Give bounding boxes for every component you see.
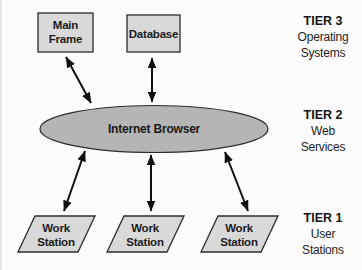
browser-label: Internet Browser [108,122,201,136]
tier-1-subtitle-line1: User [311,227,336,241]
workstation-2-node: Work Station [107,216,184,252]
double-arrow-mainframe-browser [66,57,91,103]
tier-1-subtitle-line2: Stations [302,243,344,257]
workstation-1-node: Work Station [18,216,95,252]
tier-3-subtitle-line1: Operating [298,30,349,44]
tier-2-title: TIER 2 [304,108,343,122]
tier-3-caption: TIER 3 Operating Systems [298,14,349,60]
tier-1-caption: TIER 1 User Stations [302,211,344,257]
mainframe-label-line2: Frame [49,33,83,45]
double-arrow-browser-workstation1 [64,151,85,211]
tier-2-subtitle-line1: Web [311,124,335,138]
browser-node: Internet Browser [40,106,268,153]
scan-edge-artifact [0,0,2,270]
workstation-3-node: Work Station [201,216,278,252]
tier-1-title: TIER 1 [304,211,343,225]
workstation-1-label-line1: Work [42,222,71,234]
workstation-2-label-line2: Station [126,236,164,248]
three-tier-architecture-diagram: Main Frame Database Internet Browser Wor… [0,0,362,270]
mainframe-label-line1: Main [53,19,79,31]
workstation-1-label-line2: Station [37,236,75,248]
database-node: Database [127,15,180,52]
database-label: Database [129,28,179,40]
tier-3-title: TIER 3 [304,14,343,28]
workstation-3-label-line1: Work [225,222,254,234]
tier-3-subtitle-line2: Systems [301,46,346,60]
diagram-canvas: Main Frame Database Internet Browser Wor… [0,0,362,270]
tier-2-caption: TIER 2 Web Services [301,108,346,154]
double-arrow-browser-workstation3 [225,152,248,211]
workstation-3-label-line2: Station [220,236,258,248]
tier-2-subtitle-line2: Services [301,140,346,154]
workstation-2-label-line1: Work [131,222,160,234]
mainframe-node: Main Frame [38,13,93,52]
